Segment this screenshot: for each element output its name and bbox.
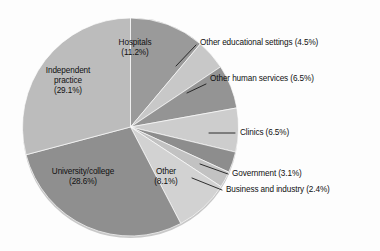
callout-label-other-educational-settings: Other educational settings (4.5%): [200, 38, 318, 48]
pie-chart-figure: Hospitals (11.2%) Independent practice (…: [0, 0, 380, 251]
slice-label-independent-practice-name-1: Independent: [27, 66, 109, 76]
pie-chart-canvas: [0, 0, 380, 251]
slice-label-other-value: (8.1%): [142, 177, 190, 187]
callout-label-business-and-industry: Business and industry (2.4%): [226, 185, 330, 195]
slice-label-other: Other (8.1%): [142, 167, 190, 187]
slice-label-university-college-name: University/college: [33, 167, 133, 177]
callout-label-clinics: Clinics (6.5%): [240, 128, 289, 138]
slice-label-independent-practice-value: (29.1%): [27, 86, 109, 96]
slice-label-independent-practice: Independent practice (29.1%): [27, 66, 109, 96]
callout-label-government: Government (3.1%): [232, 169, 302, 179]
slice-label-hospitals: Hospitals (11.2%): [104, 38, 166, 58]
slice-label-university-college: University/college (28.6%): [33, 167, 133, 187]
slice-label-hospitals-name: Hospitals: [104, 38, 166, 48]
slice-label-hospitals-value: (11.2%): [104, 48, 166, 58]
slice-label-other-name: Other: [142, 167, 190, 177]
callout-label-other-human-services: Other human services (6.5%): [210, 74, 314, 84]
slice-label-independent-practice-name-2: practice: [27, 76, 109, 86]
slice-label-university-college-value: (28.6%): [33, 177, 133, 187]
